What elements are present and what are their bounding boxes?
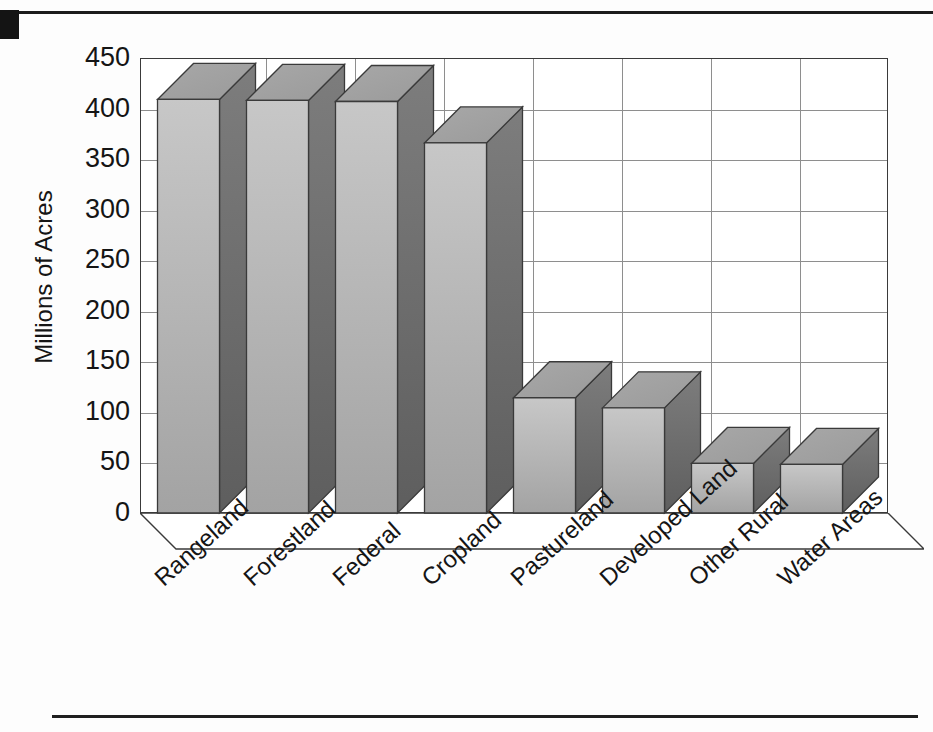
gridline-vertical <box>444 59 445 512</box>
y-axis-tick-label: 100 <box>64 398 130 425</box>
y-axis-tick-label: 450 <box>64 44 130 71</box>
gridline-vertical <box>800 59 801 512</box>
gridline-vertical <box>622 59 623 512</box>
bar-chart: Millions of Acres 4504003503002502001501… <box>0 0 933 732</box>
scanned-page: Millions of Acres 4504003503002502001501… <box>0 0 933 732</box>
gridline-vertical <box>711 59 712 512</box>
gridline-horizontal <box>141 463 887 464</box>
y-axis-tick-label: 200 <box>64 297 130 324</box>
gridline-vertical <box>355 59 356 512</box>
plot-area <box>140 58 888 513</box>
gridline-horizontal <box>141 211 887 212</box>
gridline-horizontal <box>141 261 887 262</box>
y-axis-tick-label: 0 <box>64 499 130 526</box>
y-axis-tick-label: 150 <box>64 347 130 374</box>
y-axis-tick-label: 250 <box>64 246 130 273</box>
y-axis-tick-label: 400 <box>64 95 130 122</box>
gridline-horizontal <box>141 362 887 363</box>
y-axis-tick-label: 300 <box>64 196 130 223</box>
y-axis-tick-label: 350 <box>64 145 130 172</box>
y-axis-tick-label: 50 <box>64 448 130 475</box>
gridline-horizontal <box>141 413 887 414</box>
y-axis-title: Millions of Acres <box>32 167 56 387</box>
gridline-vertical <box>266 59 267 512</box>
gridline-horizontal <box>141 312 887 313</box>
gridline-horizontal <box>141 160 887 161</box>
gridline-vertical <box>533 59 534 512</box>
gridline-horizontal <box>141 110 887 111</box>
